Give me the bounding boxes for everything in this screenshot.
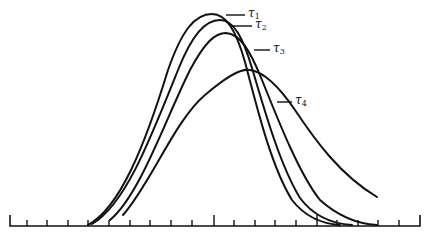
label-tau2: τ2 bbox=[255, 18, 267, 32]
label-tau4: τ4 bbox=[295, 94, 307, 108]
chart-plot-area bbox=[0, 0, 430, 241]
label-tau3: τ3 bbox=[273, 42, 285, 56]
curve-tau3 bbox=[110, 33, 377, 225]
x-axis bbox=[10, 215, 420, 226]
